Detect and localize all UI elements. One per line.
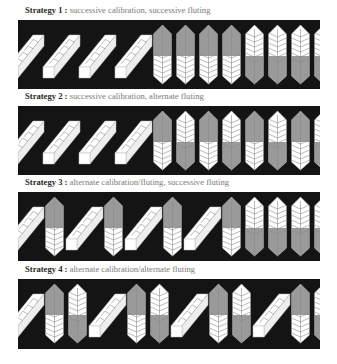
fluted-core-gray-top [210,284,228,343]
fluted-core-gray-top [292,284,310,343]
blank-piece [43,35,80,78]
blank-front-face [115,67,126,78]
fluted-core-gray-top [46,284,64,343]
fluted-core-white-top [315,111,321,170]
strategy-panel [18,192,320,261]
fluted-core-white-top [151,284,169,343]
blank-piece [184,207,221,250]
strategy-diagram [18,106,320,175]
blank-piece [18,207,44,250]
fluted-core-white-top [292,25,310,84]
blank-piece [18,294,44,337]
strategy-label: Strategy 1 : [25,5,67,15]
blank-piece [18,121,44,164]
blank-piece [79,35,116,78]
fluted-core-white-top [246,197,264,256]
strategy-panel [18,279,320,349]
blank-piece [115,121,152,164]
blank-piece [253,294,290,337]
blank-front-face [43,153,54,164]
blank-piece [79,121,116,164]
fluted-core-gray-top [177,25,195,84]
fluted-core-white-top [269,197,287,256]
fluted-core-gray-top [200,25,218,84]
fluted-core-white-top [69,284,87,343]
blank-front-face [171,326,182,337]
blank-piece [18,35,44,78]
strategy-panel [18,106,320,175]
fluted-core-gray-top [164,197,182,256]
fluted-core-white-top [223,111,241,170]
fluted-core-white-top [269,111,287,170]
strategy-caption: Strategy 2 : successive calibration, alt… [25,91,204,101]
fluted-core-gray-top [200,111,218,170]
blank-piece [171,294,208,337]
fluted-core-gray-top [128,284,146,343]
blank-front-face [43,67,54,78]
strategy-diagram [18,279,320,348]
strategy-description: alternate calibration/alternate fluting [70,264,196,274]
strategy-diagram [18,20,320,89]
strategy-description: alternate calibration/fluting, successiv… [70,177,229,187]
fluted-core-white-top [292,197,310,256]
blank-front-face [89,326,100,337]
strategy-diagram [18,192,320,261]
fluted-core-white-top [246,25,264,84]
strategy-description: successive calibration, successive fluti… [70,5,211,15]
fluted-core-white-top [315,25,321,84]
strategy-caption: Strategy 1 : successive calibration, suc… [25,5,210,15]
blank-front-face [253,326,264,337]
strategy-label: Strategy 4 : [25,264,67,274]
fluted-core-white-top [177,111,195,170]
fluted-core-white-top [269,25,287,84]
blank-front-face [79,153,90,164]
blank-front-face [79,67,90,78]
fluted-core-white-top [315,284,321,343]
fluted-core-white-top [315,197,321,256]
blank-piece [43,121,80,164]
fluted-core-gray-top [223,25,241,84]
blank-piece [125,207,162,250]
blank-front-face [125,239,136,250]
blank-front-face [115,153,126,164]
blank-front-face [184,239,195,250]
fluted-core-gray-top [154,111,172,170]
fluted-core-gray-top [292,111,310,170]
fluted-core-gray-top [46,197,64,256]
fluted-core-white-top [233,284,251,343]
strategy-description: successive calibration, alternate flutin… [70,91,204,101]
strategy-caption: Strategy 3 : alternate calibration/fluti… [25,177,229,187]
strategy-label: Strategy 2 : [25,91,67,101]
blank-piece [89,294,126,337]
strategy-panel [18,20,320,89]
blank-front-face [66,239,77,250]
fluted-core-gray-top [105,197,123,256]
fluted-core-gray-top [246,111,264,170]
blank-piece [66,207,103,250]
strategy-caption: Strategy 4 : alternate calibration/alter… [25,264,195,274]
blank-piece [115,35,152,78]
fluted-core-gray-top [223,197,241,256]
strategy-label: Strategy 3 : [25,177,67,187]
fluted-core-gray-top [154,25,172,84]
